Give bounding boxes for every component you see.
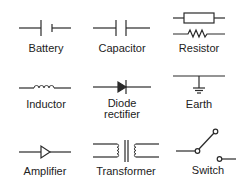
diode-label-line2: rectifier bbox=[104, 109, 140, 120]
switch-label: Switch bbox=[192, 165, 224, 176]
resistor-icon bbox=[173, 13, 225, 37]
earth-label: Earth bbox=[186, 99, 212, 110]
battery-icon bbox=[19, 20, 71, 36]
capacitor-label: Capacitor bbox=[98, 43, 145, 54]
amplifier-icon bbox=[19, 146, 71, 158]
amplifier-label: Amplifier bbox=[24, 166, 67, 177]
transformer-icon bbox=[93, 140, 159, 162]
resistor-label: Resistor bbox=[179, 43, 219, 54]
battery-label: Battery bbox=[29, 43, 64, 54]
inductor-label: Inductor bbox=[26, 99, 66, 110]
capacitor-icon bbox=[93, 20, 150, 36]
switch-icon bbox=[176, 129, 236, 161]
earth-icon bbox=[173, 76, 225, 93]
inductor-icon bbox=[19, 86, 71, 89]
diode-icon bbox=[93, 80, 151, 94]
transformer-label: Transformer bbox=[96, 166, 156, 177]
symbols-canvas bbox=[0, 0, 246, 186]
